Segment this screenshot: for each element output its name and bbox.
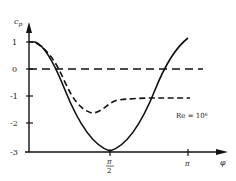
y-axis-arrow-icon	[26, 22, 32, 33]
x-axis-arrow-icon	[216, 149, 228, 155]
y-tick-label: 0	[12, 65, 17, 74]
x-axis-label: φ	[220, 158, 226, 167]
x-tick-label-pi: π	[184, 160, 190, 168]
pressure-coefficient-chart: 1 0 -1 -2 -3 cp π 2 π φ Re = 10⁶	[0, 0, 236, 181]
potential-flow-curve	[29, 38, 188, 151]
re-1e6-curve	[36, 43, 190, 113]
y-tick-label: 1	[12, 38, 17, 47]
svg-text:2: 2	[107, 167, 111, 175]
y-axis-label: cp	[14, 17, 22, 28]
y-tick-label: -3	[10, 148, 18, 157]
svg-text:π: π	[106, 158, 112, 166]
reynolds-annotation: Re = 10⁶	[176, 112, 208, 120]
y-tick-label: -1	[10, 92, 18, 101]
y-tick-label: -2	[10, 119, 18, 128]
x-tick-label-pi-half: π 2	[106, 158, 114, 175]
